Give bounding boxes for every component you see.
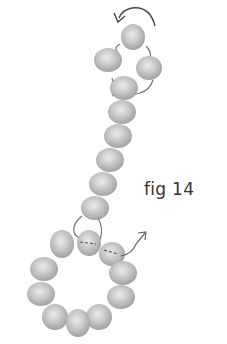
bead [121,24,145,50]
bead [107,285,135,309]
bead [110,76,138,100]
bead [66,309,90,337]
figure-label: fig 14 [144,179,194,199]
bead [42,304,68,330]
bead [86,304,112,330]
bead [104,124,132,148]
bead [108,100,136,124]
bead [96,148,124,172]
bead-cluster-top [94,24,162,100]
bead-ring [27,230,137,337]
bead [136,56,162,80]
bead [30,257,58,281]
bead [109,261,137,285]
bead [81,196,109,220]
bead [94,48,122,72]
bead [89,172,117,196]
bead-chain [81,100,136,220]
bead [77,230,101,256]
bead [50,230,74,258]
diagram-canvas [0,0,227,344]
bead [27,282,55,306]
